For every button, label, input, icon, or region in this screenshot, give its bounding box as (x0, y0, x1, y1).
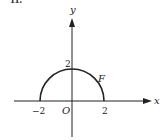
y-axis-label: y (69, 4, 76, 15)
diagram-figure: 11. y x O −2 2 2 F (0, 0, 165, 140)
x-axis-label: x (154, 95, 160, 106)
tick-label-y-pos-2: 2 (65, 59, 71, 69)
curve-label-f: F (97, 73, 106, 84)
origin-label: O (62, 105, 70, 116)
problem-number: 11. (10, 0, 22, 5)
tick-label-x-neg-2: −2 (32, 106, 45, 116)
y-axis-arrow-icon (69, 18, 75, 27)
x-axis-arrow-icon (143, 98, 152, 104)
tick-label-x-pos-2: 2 (102, 106, 108, 116)
